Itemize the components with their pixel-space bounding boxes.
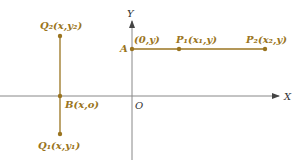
coordinate-diagram: Y X O Q₂(x,y₂) Q₁(x,y₁) B(x,o) A (0,y) P… [0, 0, 302, 167]
point-p2 [263, 47, 267, 51]
label-q1: Q₁(x,y₁) [38, 140, 80, 152]
label-b: B(x,o) [64, 99, 99, 111]
point-b [58, 94, 62, 98]
point-p1 [177, 47, 181, 51]
point-q1 [58, 132, 62, 136]
label-p2: P₂(x₂,y) [245, 34, 287, 46]
origin-label: O [135, 100, 143, 111]
x-axis-label: X [283, 91, 292, 102]
label-a-coord: (0,y) [134, 34, 160, 46]
point-q2 [58, 34, 62, 38]
label-q2: Q₂(x,y₂) [40, 20, 82, 32]
label-p1: P₁(x₁,y) [175, 34, 217, 46]
label-a: A [119, 43, 128, 54]
y-axis-label: Y [127, 8, 135, 19]
point-a [130, 47, 134, 51]
